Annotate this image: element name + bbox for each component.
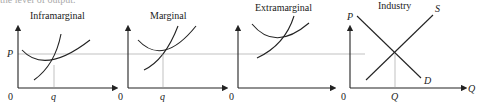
firm-comparison-diagram: Inframarginal P 0 q Marginal 0 q Extrama…: [0, 0, 477, 106]
average-cost-curve: [252, 23, 309, 38]
svg-text:0: 0: [118, 91, 123, 102]
svg-text:P: P: [6, 48, 13, 59]
svg-text:q: q: [160, 91, 165, 102]
panel-inframarginal: Inframarginal P 0 q: [6, 10, 115, 102]
panel-title: Marginal: [150, 10, 187, 21]
svg-text:P: P: [346, 11, 353, 22]
panel-title: Industry: [378, 0, 411, 11]
supply-curve: [366, 15, 433, 80]
panel-marginal: Marginal 0 q: [118, 10, 225, 102]
svg-text:0: 0: [8, 91, 13, 102]
svg-text:Q: Q: [468, 83, 476, 94]
svg-text:q: q: [51, 91, 56, 102]
marginal-cost-curve: [257, 16, 294, 58]
panel-title: Extramarginal: [255, 2, 312, 13]
svg-text:0: 0: [341, 91, 346, 102]
average-cost-curve: [138, 26, 196, 51]
demand-curve: [357, 16, 421, 78]
svg-text:S: S: [435, 3, 440, 14]
svg-text:0: 0: [229, 91, 234, 102]
panel-title: Inframarginal: [30, 10, 85, 21]
panel-industry: Industry P S D Q 0 Q: [341, 0, 476, 102]
svg-text:D: D: [423, 75, 432, 86]
svg-text:Q: Q: [391, 91, 399, 102]
marginal-cost-curve: [34, 34, 61, 80]
panel-extramarginal: Extramarginal 0: [229, 2, 333, 102]
